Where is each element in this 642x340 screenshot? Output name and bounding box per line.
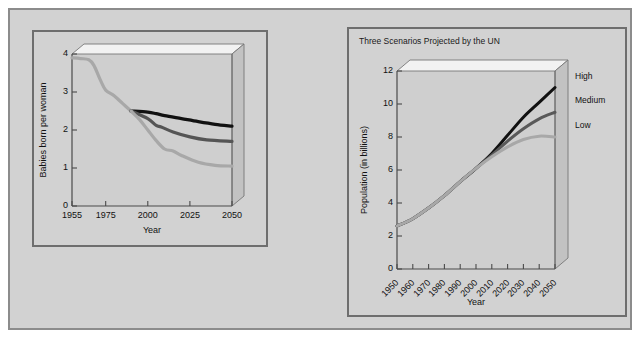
legend-label-medium: Medium [575,95,605,105]
population-y-tick-label: 10 [383,98,393,108]
fertility-x-tick-label: 1975 [86,210,126,220]
population-y-tick-label: 8 [388,131,393,141]
fertility-x-tick-label: 2025 [170,210,210,220]
fertility-x-tick-label: 2050 [212,210,252,220]
fertility-y-tick-label: 0 [63,200,68,210]
figure-canvas: Babies born per woman Year 0123419551975… [8,8,632,330]
fertility-y-tick-label: 1 [63,162,68,172]
fertility-x-tick-label: 2000 [128,210,168,220]
legend-label-low: Low [575,120,591,130]
population-y-tick-label: 0 [388,263,393,273]
population-chart-panel: Three Scenarios Projected by the UN Popu… [347,27,627,317]
population-y-tick-label: 6 [388,164,393,174]
fertility-y-tick-label: 2 [63,124,68,134]
population-y-tick-label: 2 [388,230,393,240]
fertility-y-tick-label: 3 [63,86,68,96]
fertility-chart-panel: Babies born per woman Year 0123419551975… [32,30,268,247]
legend-label-high: High [575,71,592,81]
population-y-tick-label: 4 [388,197,393,207]
fertility-y-tick-label: 4 [63,48,68,58]
population-y-tick-label: 12 [383,65,393,75]
